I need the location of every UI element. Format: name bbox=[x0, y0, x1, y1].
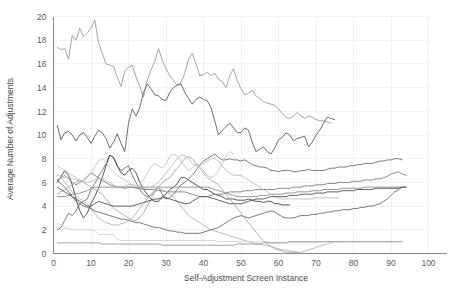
x-tick-label: 50 bbox=[236, 258, 246, 268]
x-tick-label: 60 bbox=[274, 258, 284, 268]
chart-figure: 0102030405060708090100 02468101214161820… bbox=[0, 0, 455, 294]
y-tick-label: 14 bbox=[37, 83, 47, 93]
x-tick-label: 100 bbox=[421, 258, 435, 268]
series-line bbox=[57, 242, 402, 246]
x-tick-label: 70 bbox=[311, 258, 321, 268]
y-tick-label: 2 bbox=[42, 225, 47, 235]
x-tick-label: 30 bbox=[161, 258, 171, 268]
gridlines-group bbox=[54, 17, 429, 254]
x-tick-label: 20 bbox=[124, 258, 134, 268]
y-tick-label: 6 bbox=[42, 178, 47, 188]
x-tick-label: 90 bbox=[386, 258, 396, 268]
y-tick-label: 18 bbox=[37, 35, 47, 45]
x-tick-label: 0 bbox=[51, 258, 56, 268]
series-line bbox=[57, 155, 290, 218]
y-tick-label: 20 bbox=[37, 12, 47, 22]
line-chart-svg: 0102030405060708090100 02468101214161820… bbox=[0, 0, 455, 294]
y-tick-labels-group: 02468101214161820 bbox=[37, 12, 47, 259]
y-tick-label: 16 bbox=[37, 59, 47, 69]
x-tick-label: 10 bbox=[86, 258, 96, 268]
y-tick-label: 8 bbox=[42, 154, 47, 164]
series-line bbox=[57, 178, 338, 253]
y-tick-label: 4 bbox=[42, 201, 47, 211]
x-axis-title: Self-Adjustment Screen Instance bbox=[184, 273, 308, 283]
series-line bbox=[57, 223, 395, 243]
series-line bbox=[57, 20, 331, 123]
y-tick-label: 10 bbox=[37, 130, 47, 140]
y-tick-label: 0 bbox=[42, 249, 47, 259]
y-axis-title: Average Number of Adjustments bbox=[5, 78, 15, 200]
x-tick-label: 40 bbox=[199, 258, 209, 268]
y-tick-label: 12 bbox=[37, 107, 47, 117]
series-line bbox=[57, 84, 335, 154]
x-tick-label: 80 bbox=[349, 258, 359, 268]
x-tick-labels-group: 0102030405060708090100 bbox=[51, 258, 436, 268]
series-line bbox=[57, 152, 233, 188]
